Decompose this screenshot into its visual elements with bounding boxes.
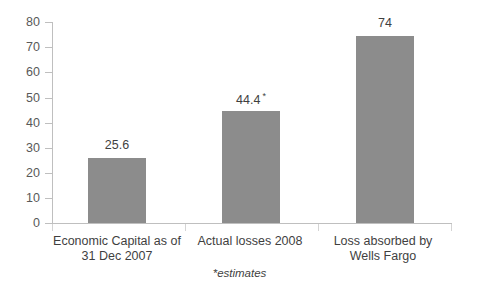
- bar-value-label-1: 25.6: [87, 139, 147, 152]
- y-axis-line: [52, 22, 53, 224]
- category-line-1: Actual losses 2008: [198, 234, 303, 248]
- y-axis-tick: [45, 173, 52, 174]
- x-axis-tick: [451, 224, 452, 231]
- x-axis-tick: [318, 224, 319, 231]
- y-axis-tick: [45, 123, 52, 124]
- y-axis-label-50: 50: [8, 92, 40, 105]
- category-line-2: Wells Fargo: [315, 249, 451, 264]
- y-axis-label-70: 70: [8, 41, 40, 54]
- bar-economic-capital: [88, 158, 146, 223]
- bar-value-text: 25.6: [105, 138, 129, 152]
- chart-footnote: *estimates: [0, 268, 479, 280]
- x-axis-tick: [52, 224, 53, 231]
- y-axis-tick: [45, 72, 52, 73]
- bar-loss-absorbed: [356, 36, 414, 223]
- y-axis-label-10: 10: [8, 192, 40, 205]
- x-axis-line: [52, 223, 452, 224]
- x-axis-category-label-1: Economic Capital as of 31 Dec 2007: [49, 234, 185, 264]
- y-axis-label-20: 20: [8, 167, 40, 180]
- x-axis-tick: [185, 224, 186, 231]
- category-line-2: 31 Dec 2007: [49, 249, 185, 264]
- bar-value-text: 74: [378, 16, 392, 30]
- y-axis-label-60: 60: [8, 66, 40, 79]
- y-axis-tick: [45, 22, 52, 23]
- y-axis-tick: [45, 223, 52, 224]
- category-line-1: Loss absorbed by: [334, 234, 433, 248]
- bar-chart: 80 70 60 50 40 30 20 10 0 25.6 44.4* 74 …: [0, 0, 479, 296]
- y-axis-tick: [45, 98, 52, 99]
- y-axis-label-30: 30: [8, 142, 40, 155]
- y-axis-label-80: 80: [8, 16, 40, 29]
- y-axis-tick: [45, 198, 52, 199]
- estimate-asterisk-marker: *: [262, 91, 266, 101]
- x-axis-category-label-3: Loss absorbed by Wells Fargo: [315, 234, 451, 264]
- bar-value-text: 44.4: [236, 93, 260, 107]
- bar-actual-losses: [222, 111, 280, 223]
- x-axis-category-label-2: Actual losses 2008: [182, 234, 318, 249]
- category-line-1: Economic Capital as of: [53, 234, 181, 248]
- y-axis-tick: [45, 47, 52, 48]
- y-axis-label-40: 40: [8, 117, 40, 130]
- y-axis-tick: [45, 148, 52, 149]
- bar-value-label-3: 74: [355, 17, 415, 30]
- bar-value-label-2: 44.4*: [215, 92, 287, 107]
- y-axis-label-0: 0: [8, 217, 40, 230]
